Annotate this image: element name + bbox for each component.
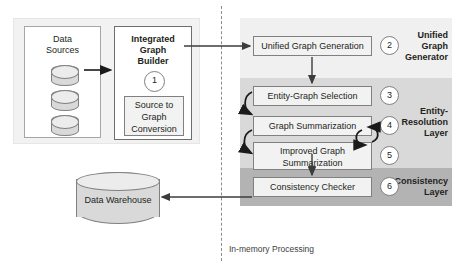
band-label-entity-resolution-layer: Entity- Resolution Layer xyxy=(366,106,448,139)
data-sources-label: Data Sources xyxy=(25,34,100,56)
process-improved-graph-summarization: Improved Graph Summarization xyxy=(253,142,372,170)
integrated-graph-builder-label: Integrated Graph Builder xyxy=(115,34,191,67)
integrated-graph-builder-box: Integrated Graph Builder 1 Source to Gra… xyxy=(114,26,192,140)
step-number-4: 4 xyxy=(380,116,399,135)
data-source-cylinder xyxy=(51,115,79,136)
step-number-5: 5 xyxy=(380,146,399,165)
in-memory-processing-label: In-memory Processing xyxy=(229,244,314,254)
source-to-graph-conversion-box: Source to Graph Conversion xyxy=(124,96,184,136)
band-label-unified-graph-generator: Unified Graph Generator xyxy=(366,30,448,63)
process-consistency-checker: Consistency Checker xyxy=(253,177,372,197)
data-source-cylinder xyxy=(51,65,79,86)
data-source-cylinder xyxy=(51,90,79,111)
step-number-2: 2 xyxy=(380,36,399,55)
data-warehouse-cylinder: Data Warehouse xyxy=(76,172,160,224)
process-graph-summarization: Graph Summarization xyxy=(253,116,372,136)
data-warehouse-label: Data Warehouse xyxy=(77,195,159,205)
step-number-3: 3 xyxy=(380,86,399,105)
step-number-6: 6 xyxy=(380,177,399,196)
data-sources-box: Data Sources xyxy=(24,26,101,138)
architecture-diagram: Data Sources Integrated Graph Builder 1 … xyxy=(0,0,475,267)
in-memory-divider xyxy=(221,6,222,261)
band-label-consistency-layer: Consistency Layer xyxy=(366,176,448,198)
process-entity-graph-selection: Entity-Graph Selection xyxy=(253,86,372,106)
process-unified-graph-generation: Unified Graph Generation xyxy=(253,36,372,56)
step-number-1: 1 xyxy=(144,71,165,92)
